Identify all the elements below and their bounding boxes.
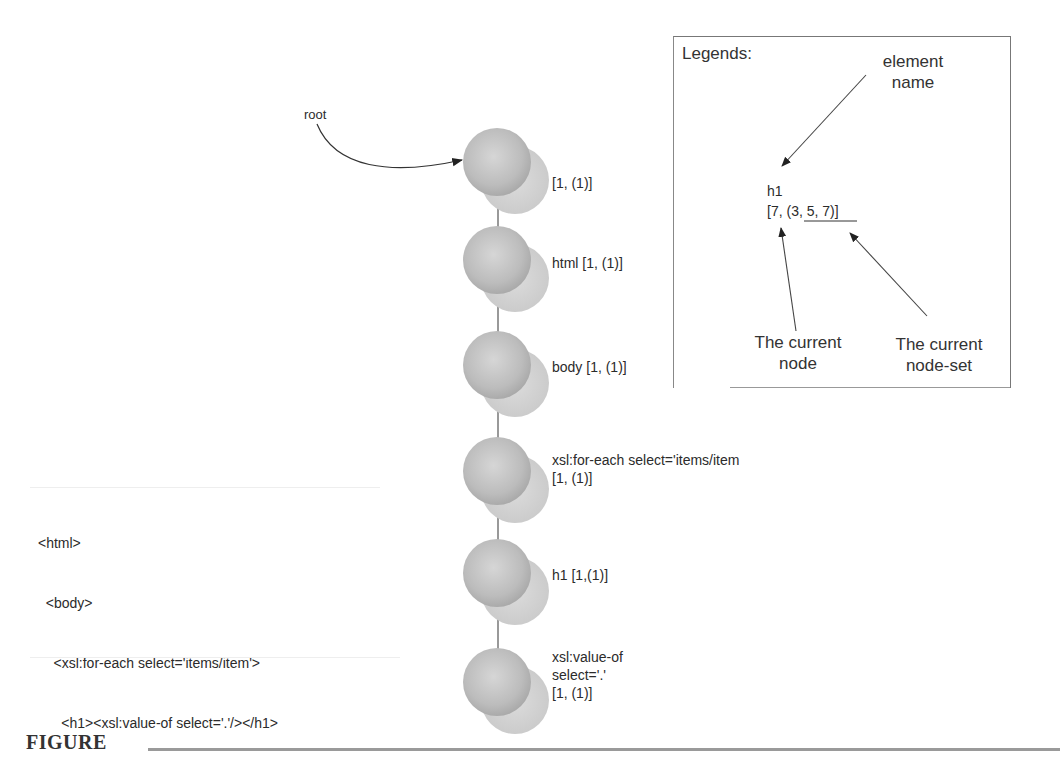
code-line: <xsl:for-each select='items/item'> [38,653,278,673]
node-label-html: html [1, (1)] [552,254,623,272]
legend-title: Legends: [682,44,752,64]
legend-current-nodeset-line2: node-set [874,355,1004,376]
legend-element-name-line1: element [868,51,958,72]
code-snippet: <html> <body> <xsl:for-each select='item… [38,493,278,762]
legend-example-state-set: 3, 5, 7) [791,203,835,219]
legend-example-state-suffix: ] [835,203,839,219]
node-label-h1: h1 [1,(1)] [552,566,608,584]
node-sphere-h1 [463,539,549,625]
legend-current-nodeset-label: The current node-set [874,334,1004,376]
code-line: <body> [38,593,278,613]
legend-current-node-label: The current node [733,332,863,374]
legend-box-bottom-border [730,387,1010,388]
node-sphere-value-of [463,648,549,734]
legend-current-nodeset-line1: The current [874,334,1004,355]
code-line: <h1><xsl:value-of select='.'/></h1> [38,713,278,733]
legend-current-node-line2: node [733,353,863,374]
node-sphere-body [463,331,549,417]
root-arrow [317,124,462,168]
legend-element-name-line2: name [868,72,958,93]
node-label-value-of-line2: select='.' [552,666,606,684]
node-sphere-html [463,226,549,312]
code-line: <html> [38,533,278,553]
node-label-value-of-line1: xsl:value-of [552,648,623,666]
node-label-for-each-line2: [1, (1)] [552,469,592,487]
legend-example-name: h1 [767,181,783,201]
node-label-body: body [1, (1)] [552,358,627,376]
figure-rule [148,748,1060,751]
legend-element-name-label: element name [868,51,958,93]
node-label-for-each-line1: xsl:for-each select='items/item [552,451,739,469]
node-label-root: [1, (1)] [552,174,592,192]
code-top-rule [30,487,380,488]
node-label-value-of-line3: [1, (1)] [552,684,592,702]
legend-example-state: [7, (3, 5, 7)] [767,201,839,221]
root-label: root [304,106,326,124]
legend-example-state-prefix: [7, ( [767,203,791,219]
legend-current-node-line1: The current [733,332,863,353]
node-sphere-for-each [463,437,549,523]
figure-caption: FIGURE [26,731,107,754]
node-sphere-root [463,128,549,214]
code-bottom-rule [30,657,400,658]
